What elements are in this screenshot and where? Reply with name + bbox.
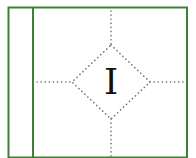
center-label: I xyxy=(96,62,126,102)
